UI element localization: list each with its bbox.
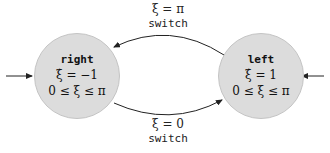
- transition-action: switch: [128, 17, 208, 31]
- state-dynamics: ξ̇ = 1: [245, 67, 277, 83]
- state-invariant: 0 ≤ ξ ≤ π: [48, 83, 106, 99]
- transition-guard: ξ = 0: [128, 117, 208, 132]
- transition-top-edge: [114, 35, 224, 55]
- state-right: right ξ̇ = −1 0 ≤ ξ ≤ π: [34, 33, 120, 119]
- transition-top-label: ξ = π switch: [128, 2, 208, 31]
- transition-bottom-label: ξ = 0 switch: [128, 117, 208, 146]
- state-name: right: [60, 53, 93, 67]
- transition-bottom-edge: [114, 100, 222, 115]
- state-name: left: [248, 53, 275, 67]
- transition-guard: ξ = π: [128, 2, 208, 17]
- state-dynamics: ξ̇ = −1: [56, 67, 98, 83]
- transition-action: switch: [128, 132, 208, 146]
- state-invariant: 0 ≤ ξ ≤ π: [232, 83, 290, 99]
- state-left: left ξ̇ = 1 0 ≤ ξ ≤ π: [218, 33, 304, 119]
